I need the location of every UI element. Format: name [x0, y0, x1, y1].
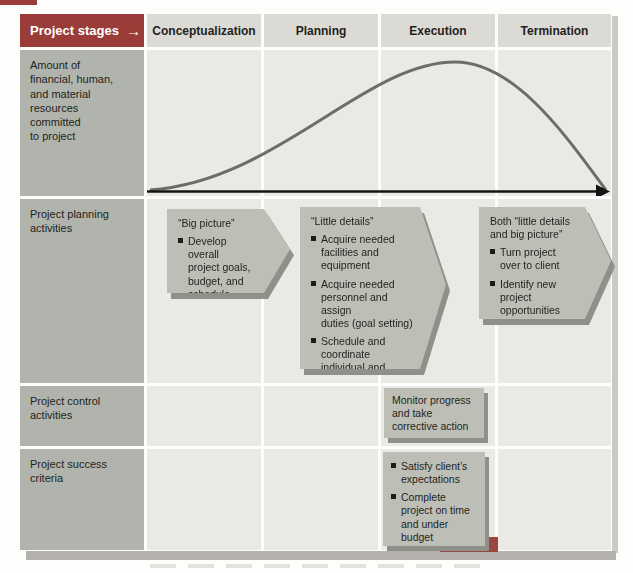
list-item: Develop overall project goals, budget, a…: [178, 235, 260, 301]
big-picture-title: “Big picture”: [178, 217, 260, 230]
row-label-success-criteria: Project success criteria: [20, 449, 144, 550]
grid-cell: [147, 449, 261, 550]
list-item: Identify new project opportunities: [490, 278, 581, 317]
stage-header-execution: Execution: [381, 14, 495, 47]
row-label-resources: Amount of financial, human, and material…: [20, 50, 144, 196]
big-picture-arrow-box: “Big picture” Develop overall project go…: [167, 209, 290, 293]
little-details-title: “Little details”: [311, 215, 416, 228]
figure-bottom-edge-shadow: [26, 551, 616, 560]
row-label-control-activities: Project control activities: [20, 386, 144, 446]
bullet-icon: [311, 236, 316, 241]
figure-right-edge-shadow: [612, 16, 618, 553]
monitor-progress-box: Monitor progress and take corrective act…: [384, 388, 484, 438]
both-details-arrow-box: Both “little details and big picture” Tu…: [479, 207, 611, 319]
bullet-icon: [311, 281, 316, 286]
little-details-arrow-box: “Little details” Acquire needed faciliti…: [300, 207, 446, 369]
row-label-planning-activities: Project planning activities: [20, 199, 144, 383]
page-accent-strip: [0, 0, 37, 5]
grid-cell: [498, 449, 611, 550]
figure-project-life-cycle: Project stages → Conceptualization Plann…: [0, 0, 633, 573]
project-stages-label: Project stages: [30, 23, 119, 38]
right-arrow-icon: →: [126, 23, 141, 38]
list-item: Acquire needed facilities and equipment: [311, 233, 416, 272]
project-stages-header: Project stages →: [20, 14, 144, 47]
bullet-icon: [490, 281, 495, 286]
resource-commitment-curve: [147, 50, 611, 196]
grid-cell: [264, 449, 378, 550]
grid-cell: [147, 386, 261, 446]
both-details-title: Both “little details and big picture”: [490, 215, 581, 241]
stage-header-termination: Termination: [498, 14, 611, 47]
bullet-icon: [490, 249, 495, 254]
list-item: Turn project over to client: [490, 246, 581, 272]
stage-header-conceptualization: Conceptualization: [147, 14, 261, 47]
grid-cell: [264, 386, 378, 446]
bullet-icon: [311, 338, 316, 343]
success-criteria-box: Satisfy client’s expectations Complete p…: [383, 452, 485, 546]
bullet-icon: [391, 463, 396, 468]
list-item: Complete project on time and under budge…: [391, 491, 481, 544]
list-item: Acquire needed personnel and assign duti…: [311, 278, 416, 331]
list-item: Satisfy client’s expectations: [391, 460, 481, 486]
stage-header-planning: Planning: [264, 14, 378, 47]
grid-cell: [498, 386, 611, 446]
cropped-caption: [150, 564, 480, 568]
bullet-icon: [178, 238, 183, 243]
bullet-icon: [391, 494, 396, 499]
